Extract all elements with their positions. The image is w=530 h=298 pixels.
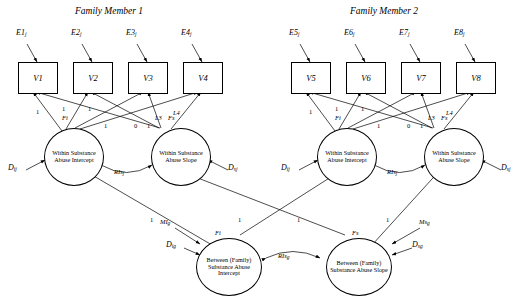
residual-e5: E5j [289, 28, 299, 37]
diagram-canvas: Family Member 1 Family Member 2 E1j E2j … [0, 0, 530, 298]
latent-within-slope-2-text: Within Substance Abuse Slope [425, 150, 483, 164]
path-value-b2w-4: 1 [386, 216, 389, 223]
residual-e3: E3j [126, 28, 136, 37]
residual-e6: E6j [344, 28, 354, 37]
latent-within-intercept-2: Within Substance Abuse Intercept [317, 128, 377, 186]
path-value-w1-i-2: 1 [62, 105, 65, 112]
loading-l4-a: L4 [173, 109, 180, 116]
path-value-b2w-3: 1 [297, 216, 300, 223]
latent-within-intercept-1-text: Within Substance Abuse Intercept [45, 150, 103, 164]
title-family-1: Family Member 1 [75, 6, 143, 16]
residual-e7: E7j [399, 28, 409, 37]
indicator-v2: V2 [73, 62, 113, 94]
loading-l3-a: L3 [155, 114, 162, 121]
disturbance-ds-1: Dsj [228, 163, 237, 172]
path-value-w2-i-2: 1 [335, 105, 338, 112]
indicator-v6: V6 [346, 62, 386, 94]
tag-fi-between: Fi [215, 229, 221, 236]
latent-between-intercept-text: Between (Family) Substance Abuse Interce… [197, 257, 261, 278]
covariance-ris-g: RIsg [278, 252, 289, 260]
disturbance-ds-2: Dsj [501, 163, 510, 172]
tag-fi-2: Fi [335, 114, 341, 121]
covariance-ris-2: RIsj [387, 168, 397, 176]
latent-within-intercept-2-text: Within Substance Abuse Intercept [318, 150, 376, 164]
path-value-b2w-1: 1 [150, 216, 153, 223]
indicator-v4: V4 [183, 62, 223, 94]
residual-e2: E2j [71, 28, 81, 37]
latent-within-slope-1-text: Within Substance Abuse Slope [152, 150, 210, 164]
latent-between-intercept: Between (Family) Substance Abuse Interce… [196, 238, 262, 296]
path-value-w1-i-1: 1 [36, 108, 39, 115]
path-value-b2w-2: 1 [238, 216, 241, 223]
mean-ms-g: Msg [419, 218, 430, 226]
latent-between-slope-text: Between (Family) Substance Abuse Slope [327, 260, 391, 274]
path-value-w2-i-3: 1 [361, 105, 364, 112]
indicator-v7: V7 [401, 62, 441, 94]
residual-e1: E1j [16, 28, 26, 37]
disturbance-dig: Dig [166, 240, 176, 249]
indicator-v3: V3 [128, 62, 168, 94]
loading-l4-b: L4 [446, 109, 453, 116]
residual-e4: E4j [181, 28, 191, 37]
tag-fs-between: Fs [352, 229, 359, 236]
path-value-w1-s-2: 1 [147, 122, 150, 129]
disturbance-di-1: Dij [8, 163, 17, 172]
mean-mi-g: MIg [160, 218, 170, 226]
disturbance-di-2: Dij [281, 163, 290, 172]
path-value-w1-s-1: 0 [134, 122, 137, 129]
indicator-v8: V8 [456, 62, 496, 94]
path-value-w2-i-4: 1 [377, 122, 380, 129]
path-value-w2-s-2: 1 [420, 122, 423, 129]
indicator-v1: V1 [18, 62, 58, 94]
path-value-w2-s-1: 0 [407, 122, 410, 129]
latent-between-slope: Between (Family) Substance Abuse Slope [326, 238, 392, 296]
path-value-w1-i-4: 1 [104, 122, 107, 129]
title-family-2: Family Member 2 [350, 6, 418, 16]
latent-within-slope-1: Within Substance Abuse Slope [151, 128, 211, 186]
tag-fi-1: Fi [62, 114, 68, 121]
loading-l3-b: L3 [428, 114, 435, 121]
indicator-v5: V5 [291, 62, 331, 94]
disturbance-dsg: Dsg [412, 240, 423, 249]
path-value-w1-i-3: 1 [88, 105, 91, 112]
residual-e8: E8j [454, 28, 464, 37]
covariance-ris-1: RIsj [114, 168, 124, 176]
path-value-w2-i-1: 1 [309, 108, 312, 115]
latent-within-slope-2: Within Substance Abuse Slope [424, 128, 484, 186]
latent-within-intercept-1: Within Substance Abuse Intercept [44, 128, 104, 186]
